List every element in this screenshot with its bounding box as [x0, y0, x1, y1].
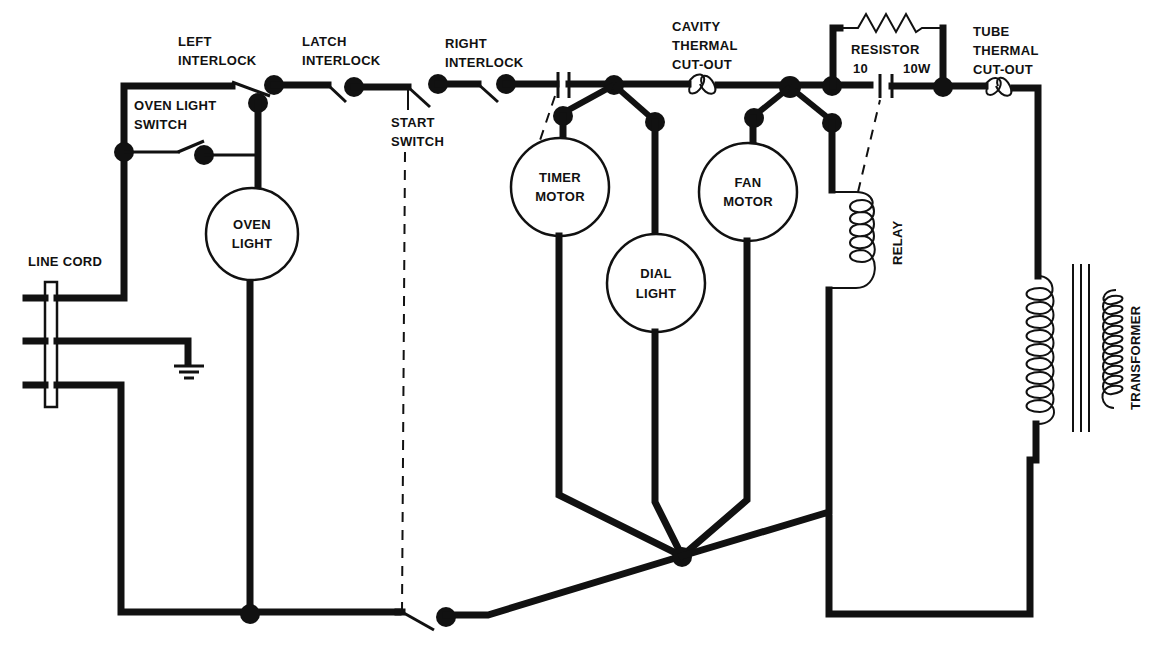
transformer-icon [1027, 264, 1123, 432]
timer-motor: TIMER MOTOR [511, 138, 609, 236]
cavity-thermal-cutout-icon [688, 74, 715, 93]
microwave-wiring-diagram: LINE CORD LEFT INTERLOCK OVEN LIGHT SWIT… [0, 0, 1159, 645]
start-switch-label: START SWITCH [391, 115, 444, 149]
transformer-label: TRANSFORMER [1128, 305, 1143, 410]
tube-thermal-cutout-label: TUBE THERMAL CUT-OUT [973, 24, 1042, 77]
oven-light: OVEN LIGHT [206, 188, 298, 280]
svg-text:LIGHT: LIGHT [232, 236, 273, 251]
svg-text:OVEN: OVEN [233, 217, 271, 232]
dial-light: DIAL LIGHT [607, 234, 705, 332]
right-interlock-label: RIGHT INTERLOCK [445, 36, 524, 70]
fan-motor: FAN MOTOR [699, 143, 797, 241]
svg-text:MOTOR: MOTOR [723, 194, 773, 209]
svg-text:TIMER: TIMER [539, 170, 581, 185]
cavity-thermal-cutout-label: CAVITY THERMAL CUT-OUT [672, 19, 741, 72]
left-interlock-label: LEFT INTERLOCK [178, 34, 257, 68]
line-cord [26, 86, 398, 612]
tube-thermal-cutout-icon [985, 78, 1011, 96]
ground-symbol-icon [174, 366, 204, 378]
svg-text:FAN: FAN [735, 175, 762, 190]
resistor-icon [840, 14, 942, 32]
oven-light-switch-label: OVEN LIGHT SWITCH [134, 98, 220, 132]
relay-label: RELAY [890, 221, 905, 265]
latch-interlock-label: LATCH INTERLOCK [302, 34, 381, 68]
oven-light-switch [114, 141, 258, 165]
line-cord-label: LINE CORD [28, 254, 102, 269]
svg-text:DIAL: DIAL [640, 266, 672, 281]
resistor-label: RESISTOR 10 10W [851, 42, 931, 76]
start-switch-mechanical-link [402, 152, 405, 612]
svg-text:MOTOR: MOTOR [535, 189, 585, 204]
svg-text:LIGHT: LIGHT [636, 286, 677, 301]
